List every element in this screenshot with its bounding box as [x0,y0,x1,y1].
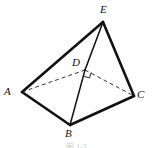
edge-B-D [70,70,85,125]
geometry-figure: E A B C D 图 1-3 [0,0,153,148]
edge-B-C [70,96,134,125]
edge-A-E [22,22,103,92]
vertex-label-C: C [137,89,144,100]
edge-A-D-dashed [22,70,85,92]
vertex-label-D: D [72,57,80,68]
figure-canvas [0,0,153,148]
edge-E-C [103,22,134,96]
edge-A-B [22,92,70,125]
figure-caption: 图 1-3 [0,141,153,148]
right-angle-mark-at-D [84,72,91,78]
vertex-label-A: A [4,86,11,97]
vertex-label-E: E [100,4,107,15]
vertex-label-B: B [65,128,72,139]
edge-D-C-dashed [85,70,134,96]
